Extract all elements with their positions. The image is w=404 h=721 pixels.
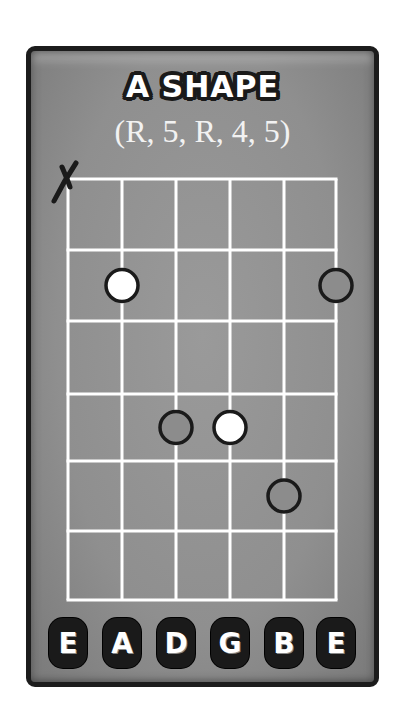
muted-x-icon [54, 163, 76, 201]
chord-shape-card: A SHAPE (R, 5, R, 4, 5) EADGBE [26, 46, 379, 687]
string-label-b-4: B [265, 618, 303, 668]
interval-note-dot [320, 270, 352, 302]
root-note-dot [214, 412, 246, 444]
string-labels: EADGBE [31, 618, 374, 668]
string-label-g-3: G [211, 618, 249, 668]
root-note-dot [106, 270, 138, 302]
interval-note-dot [160, 412, 192, 444]
string-label-a-1: A [103, 618, 141, 668]
fretboard-grid [31, 51, 374, 682]
string-label-e-5: E [317, 618, 355, 668]
string-label-e-0: E [49, 618, 87, 668]
interval-note-dot [268, 480, 300, 512]
string-label-d-2: D [157, 618, 195, 668]
